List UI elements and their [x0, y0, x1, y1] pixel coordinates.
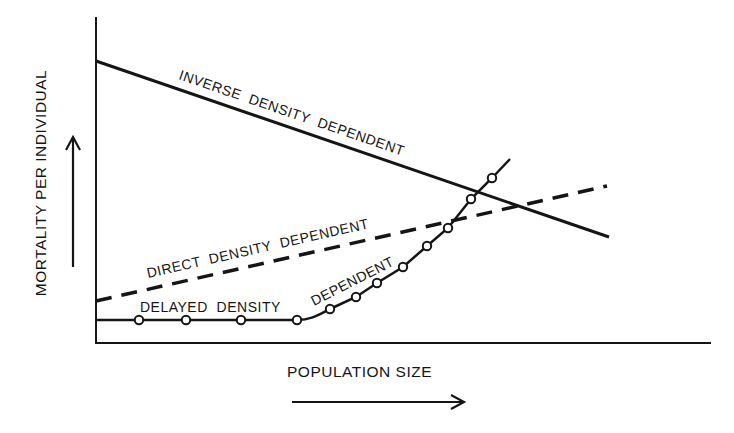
density-dependence-diagram: INVERSE DENSITY DEPENDENT DIRECT DENSITY… [0, 0, 734, 433]
delayed-density-label-a: DELAYED DENSITY [140, 299, 281, 315]
inverse-density-label: INVERSE DENSITY DEPENDENT [177, 67, 407, 159]
x-direction-arrow-icon [292, 395, 464, 409]
inverse-density-line [96, 61, 609, 237]
y-direction-arrow-icon [66, 137, 80, 267]
x-axis-title: POPULATION SIZE [287, 363, 432, 380]
y-axis-title: MORTALITY PER INDIVIDUAL [32, 70, 49, 296]
